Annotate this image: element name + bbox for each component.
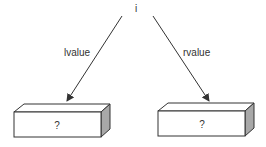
right-box-top-face [158, 103, 254, 111]
right-box-label: ? [199, 119, 205, 130]
rvalue-arrow [153, 16, 209, 101]
lvalue-label: lvalue [64, 47, 91, 58]
right-box: ? [158, 103, 254, 136]
diagram-canvas: i lvalue rvalue ? ? [0, 0, 266, 147]
left-box: ? [14, 104, 110, 137]
left-box-label: ? [54, 120, 60, 131]
root-label: i [135, 3, 137, 14]
lvalue-arrow [67, 16, 122, 101]
left-box-top-face [14, 104, 110, 112]
rvalue-label: rvalue [183, 47, 211, 58]
